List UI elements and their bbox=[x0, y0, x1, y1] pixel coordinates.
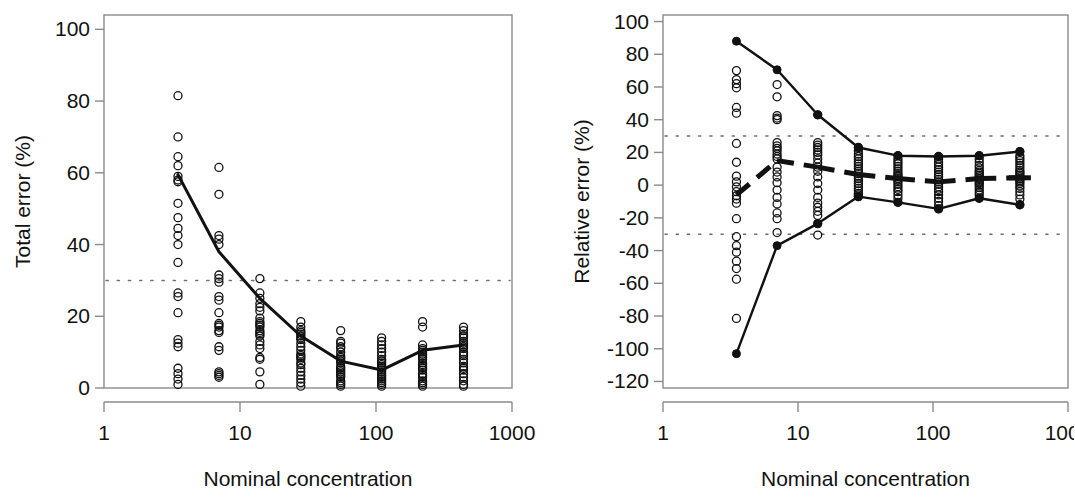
y-tick-label: 100 bbox=[614, 10, 649, 33]
y-tick-label: -20 bbox=[619, 206, 649, 229]
figure-container: 0204060801001101001000Nominal concentrat… bbox=[0, 0, 1075, 498]
y-tick-label: 40 bbox=[626, 108, 649, 131]
chart-canvas-left: 0204060801001101001000Nominal concentrat… bbox=[0, 0, 537, 498]
x-tick-label: 100 bbox=[915, 421, 950, 444]
axis-labels-left: 0204060801001101001000Nominal concentrat… bbox=[11, 17, 535, 490]
y-tick-label: 0 bbox=[637, 173, 649, 196]
y-axis-title: Total error (%) bbox=[11, 135, 34, 268]
x-tick-label: 10 bbox=[786, 421, 809, 444]
x-tick-label: 1 bbox=[657, 421, 669, 444]
panel-total-error: 0204060801001101001000Nominal concentrat… bbox=[0, 0, 537, 498]
x-tick-label: 1000 bbox=[1045, 421, 1074, 444]
data-points-left bbox=[174, 92, 468, 391]
y-tick-label: 80 bbox=[626, 42, 649, 65]
x-tick-label: 1 bbox=[98, 421, 110, 444]
plot-frame-left bbox=[104, 15, 512, 388]
y-tick-label: 40 bbox=[67, 233, 90, 256]
y-tick-label: 60 bbox=[67, 161, 90, 184]
y-tick-label: -60 bbox=[619, 271, 649, 294]
x-tick-label: 100 bbox=[358, 421, 393, 444]
y-tick-label: 20 bbox=[626, 140, 649, 163]
chart-canvas-right: -120-100-80-60-40-2002040608010011010010… bbox=[537, 0, 1074, 498]
plot-frame-right bbox=[663, 15, 1068, 388]
x-tick-label: 10 bbox=[228, 421, 251, 444]
x-axis-title: Nominal concentration bbox=[204, 467, 413, 490]
trend-line-right bbox=[732, 37, 1030, 357]
x-axis-title: Nominal concentration bbox=[761, 467, 970, 490]
y-tick-label: -100 bbox=[607, 337, 649, 360]
y-tick-label: -80 bbox=[619, 304, 649, 327]
axis-labels-right: -120-100-80-60-40-2002040608010011010010… bbox=[570, 10, 1074, 490]
y-tick-label: -40 bbox=[619, 239, 649, 262]
y-tick-label: 0 bbox=[78, 376, 90, 399]
y-tick-label: 20 bbox=[67, 304, 90, 327]
y-tick-label: 80 bbox=[67, 89, 90, 112]
panel-relative-error: -120-100-80-60-40-2002040608010011010010… bbox=[537, 0, 1074, 498]
y-axis-title: Relative error (%) bbox=[570, 119, 593, 284]
y-tick-label: 100 bbox=[55, 17, 90, 40]
y-tick-label: -120 bbox=[607, 369, 649, 392]
y-tick-label: 60 bbox=[626, 75, 649, 98]
x-tick-label: 1000 bbox=[489, 421, 536, 444]
threshold-lines-right bbox=[665, 136, 1066, 234]
axes-right bbox=[654, 22, 1068, 412]
